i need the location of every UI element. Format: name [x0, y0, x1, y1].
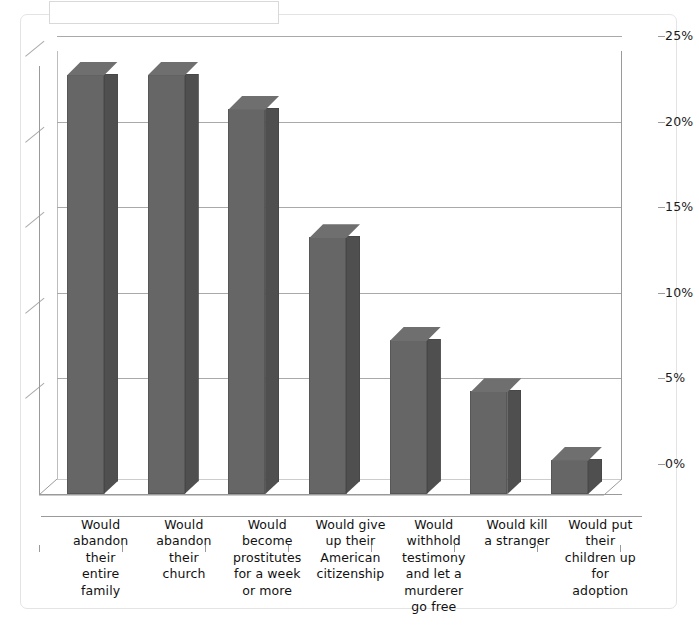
bar-7[interactable] [551, 446, 602, 494]
x-category-label-5: Wouldwithholdtestimonyand let amurdererg… [392, 517, 475, 622]
y-tick-mark-15pct [658, 207, 665, 208]
bar-front-face-5 [390, 340, 427, 494]
y-tick-mark-5pct [658, 378, 665, 379]
x-category-label-4-line-4: citizenship [309, 566, 392, 582]
x-category-label-4-line-3: American [309, 550, 392, 566]
bar-front-face-6 [470, 391, 507, 494]
gridline-connector-10pct [25, 298, 57, 330]
gridline-connector-20pct [25, 126, 57, 158]
y-tick-label-0pct: 0% [665, 456, 685, 471]
x-category-label-7: Would puttheirchildren upforadoption [559, 517, 642, 622]
x-category-label-3-line-3: prostitutes [226, 550, 309, 566]
x-category-label-1-line-5: family [59, 583, 142, 599]
bar-3[interactable] [228, 95, 279, 494]
x-category-label-5-line-2: withhold [392, 533, 475, 549]
bar-side-face-5 [427, 339, 441, 494]
bar-front-face-4 [309, 237, 346, 494]
bar-side-face-1 [104, 74, 118, 494]
x-category-label-1-line-1: Would [59, 517, 142, 533]
gridline-15pct [57, 207, 622, 208]
y-tick-mark-20pct [658, 122, 665, 123]
bar-side-face-3 [265, 108, 279, 494]
gridline-connector-25pct [25, 41, 57, 73]
chart-outer-frame: 0%5%10%15%20%25% Wouldabandontheirentire… [20, 14, 677, 609]
bar-front-face-1 [67, 75, 104, 494]
x-category-label-3-line-2: become [226, 533, 309, 549]
bar-4[interactable] [309, 223, 360, 494]
bar-2[interactable] [148, 61, 199, 494]
x-category-label-1-line-4: entire [59, 566, 142, 582]
x-category-label-5-line-5: murderer [392, 583, 475, 599]
x-category-label-6-line-2: a stranger [475, 533, 558, 549]
plot-area: 0%5%10%15%20%25% [39, 51, 622, 494]
x-category-label-1-line-2: abandon [59, 533, 142, 549]
y-tick-label-5pct: 5% [665, 370, 685, 385]
x-category-label-7-line-3: children up [559, 550, 642, 566]
bar-5[interactable] [390, 326, 441, 494]
chart-title-placeholder-box [49, 1, 279, 24]
x-tick-mark-0 [39, 545, 40, 552]
x-category-label-2-line-2: abandon [142, 533, 225, 549]
x-category-label-5-line-1: Would [392, 517, 475, 533]
x-category-label-5-line-6: go free [392, 599, 475, 615]
x-category-label-2-line-4: church [142, 566, 225, 582]
x-category-label-4-line-2: up their [309, 533, 392, 549]
x-category-label-5-line-3: testimony [392, 550, 475, 566]
y-axis-front-line [39, 66, 40, 494]
y-tick-label-20pct: 20% [665, 114, 693, 129]
x-category-label-5-line-4: and let a [392, 566, 475, 582]
x-category-label-4: Would giveup theirAmericancitizenship [309, 517, 392, 622]
gridline-connector-15pct [25, 212, 57, 244]
bar-front-face-2 [148, 75, 185, 494]
gridline-25pct [57, 36, 622, 37]
bar-side-face-6 [507, 390, 521, 494]
y-tick-label-25pct: 25% [665, 28, 693, 43]
x-category-label-group: WouldabandontheirentirefamilyWouldabando… [59, 517, 642, 622]
bar-6[interactable] [470, 377, 521, 494]
x-category-label-1: Wouldabandontheirentirefamily [59, 517, 142, 622]
bar-front-face-3 [228, 109, 265, 494]
x-category-label-7-line-5: adoption [559, 583, 642, 599]
bar-front-face-7 [551, 460, 588, 494]
x-category-label-3-line-1: Would [226, 517, 309, 533]
y-axis-right-line [621, 51, 622, 479]
x-category-label-2: Wouldabandontheirchurch [142, 517, 225, 622]
x-category-label-4-line-1: Would give [309, 517, 392, 533]
bar-side-face-4 [346, 236, 360, 494]
gridline-20pct [57, 122, 622, 123]
y-tick-label-10pct: 10% [665, 285, 693, 300]
bar-side-face-7 [588, 459, 602, 494]
y-tick-mark-25pct [658, 36, 665, 37]
x-category-label-7-line-1: Would put [559, 517, 642, 533]
y-tick-mark-10pct [658, 293, 665, 294]
bar-side-face-2 [185, 74, 199, 494]
x-category-label-2-line-1: Would [142, 517, 225, 533]
x-category-label-7-line-2: their [559, 533, 642, 549]
y-tick-label-15pct: 15% [665, 199, 693, 214]
x-category-label-3-line-5: or more [226, 583, 309, 599]
gridline-connector-5pct [25, 383, 57, 415]
x-category-label-2-line-3: their [142, 550, 225, 566]
bar-1[interactable] [67, 61, 118, 494]
x-category-label-6-line-1: Would kill [475, 517, 558, 533]
y-tick-mark-0pct [658, 464, 665, 465]
x-category-label-3-line-4: for a week [226, 566, 309, 582]
x-category-label-6: Would killa stranger [475, 517, 558, 622]
x-category-label-7-line-4: for [559, 566, 642, 582]
x-category-label-1-line-3: their [59, 550, 142, 566]
x-category-label-3: Wouldbecomeprostitutesfor a weekor more [226, 517, 309, 622]
